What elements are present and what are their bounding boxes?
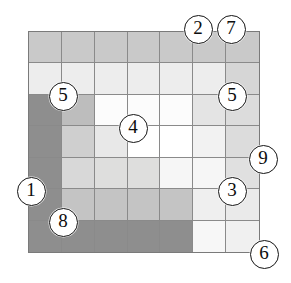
marker-8: 8 (49, 208, 78, 237)
grid-cell-r7-c4 (128, 221, 161, 252)
grid-cell-r6-c3 (95, 189, 128, 220)
marker-4: 4 (119, 114, 148, 143)
grid-cell-r7-c3 (95, 221, 128, 252)
marker-2: 2 (184, 15, 213, 44)
grid-cell-r2-c5 (160, 63, 193, 94)
marker-5-right: 5 (218, 82, 247, 111)
marker-5-left: 5 (49, 82, 78, 111)
grid-cell-r7-c5 (160, 221, 193, 252)
grid-cell-r5-c3 (95, 158, 128, 189)
grid-cell-r6-c4 (128, 189, 161, 220)
grid-cell-r1-c3 (95, 32, 128, 63)
figure-canvas: 2755491386 (0, 0, 291, 283)
grid-cell-r1-c4 (128, 32, 161, 63)
grid-cell-r5-c2 (62, 158, 95, 189)
grid-cell-r6-c5 (160, 189, 193, 220)
grid-cell-r4-c2 (62, 126, 95, 157)
grid-cell-r2-c4 (128, 63, 161, 94)
marker-1: 1 (17, 177, 46, 206)
grid-cell-r7-c6 (193, 221, 226, 252)
grid-cell-r4-c1 (29, 126, 62, 157)
grid-cell-r1-c1 (29, 32, 62, 63)
grid-cell-r5-c4 (128, 158, 161, 189)
marker-9: 9 (249, 145, 278, 174)
marker-6: 6 (250, 240, 279, 269)
grid-cell-r1-c2 (62, 32, 95, 63)
grid-cell-r4-c6 (193, 126, 226, 157)
grid-cell-r3-c5 (160, 95, 193, 126)
grid-cell-r4-c5 (160, 126, 193, 157)
marker-7: 7 (217, 15, 246, 44)
grid-cell-r5-c5 (160, 158, 193, 189)
marker-3: 3 (218, 177, 247, 206)
grid-cell-r2-c3 (95, 63, 128, 94)
